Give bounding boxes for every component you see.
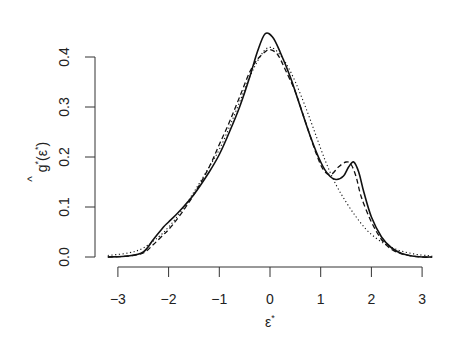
svg-text:g*(ε*): g*(ε*) bbox=[33, 142, 50, 172]
plot-lines bbox=[108, 33, 432, 257]
y-axis-label: g*(ε*) ^ bbox=[25, 142, 50, 182]
x-tick-label: 2 bbox=[368, 291, 376, 307]
x-tick-label: 1 bbox=[317, 291, 325, 307]
x-tick-label: 0 bbox=[266, 291, 274, 307]
x-axis-label: ε* bbox=[265, 313, 275, 330]
x-tick-label: −3 bbox=[110, 291, 126, 307]
x-tick-label: 3 bbox=[418, 291, 426, 307]
y-axis: 0.00.10.20.30.4 bbox=[56, 47, 95, 267]
y-tick-label: 0.4 bbox=[56, 47, 72, 67]
y-tick-label: 0.0 bbox=[56, 247, 72, 267]
density-line-dotted bbox=[108, 47, 432, 256]
density-line-solid bbox=[108, 33, 432, 257]
x-tick-label: −1 bbox=[211, 291, 227, 307]
hat-accent: ^ bbox=[25, 176, 39, 182]
y-tick-label: 0.3 bbox=[56, 97, 72, 117]
y-tick-label: 0.1 bbox=[56, 197, 72, 217]
density-chart: 0.00.10.20.30.4 −3−2−10123 ε* g*(ε*) ^ bbox=[0, 0, 455, 349]
x-tick-label: −2 bbox=[161, 291, 177, 307]
x-axis: −3−2−10123 bbox=[110, 267, 426, 307]
y-tick-label: 0.2 bbox=[56, 147, 72, 167]
density-line-dashed bbox=[108, 49, 432, 257]
